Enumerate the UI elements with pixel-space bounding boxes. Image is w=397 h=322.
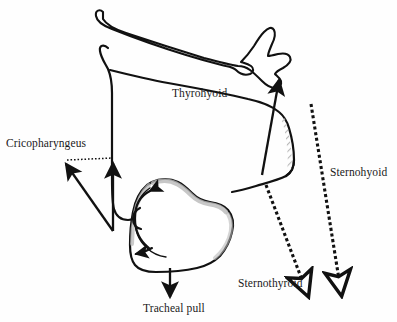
anatomy-figure: Thyrohyoid Cricopharyngeus Sternohyoid S… [0, 0, 397, 322]
label-tracheal-pull: Tracheal pull [143, 303, 205, 315]
label-sternohyoid: Sternohyoid [330, 167, 387, 179]
anatomy-illustration [0, 0, 397, 322]
label-sternothyroid: Sternothyroid [238, 278, 303, 290]
label-thyrohyoid: Thyrohyoid [172, 88, 227, 100]
label-cricopharyngeus: Cricopharyngeus [6, 138, 86, 150]
